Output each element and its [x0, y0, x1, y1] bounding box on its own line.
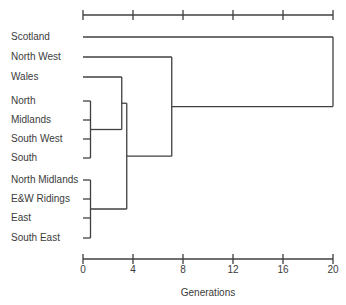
leaf-label-north-midlands: North Midlands [11, 174, 78, 186]
dendrogram-figure: Scotland North West Wales North Midlands… [0, 0, 346, 305]
leaf-label-north-west: North West [11, 51, 61, 63]
leaf-label-wales: Wales [11, 71, 38, 83]
x-tick-label-20: 20 [327, 264, 338, 276]
leaf-label-north: North [11, 95, 35, 107]
dendrogram-lines [0, 0, 346, 305]
x-tick-label-16: 16 [277, 264, 288, 276]
x-tick-label-8: 8 [180, 264, 186, 276]
leaf-label-south: South [11, 152, 37, 164]
leaf-label-south-east: South East [11, 232, 60, 244]
leaf-label-midlands: Midlands [11, 114, 51, 126]
leaf-label-east: East [11, 212, 31, 224]
x-tick-label-0: 0 [80, 264, 86, 276]
leaf-label-ew-ridings: E&W Ridings [11, 193, 70, 205]
x-tick-label-4: 4 [130, 264, 136, 276]
x-axis-title: Generations [181, 287, 235, 299]
x-tick-label-12: 12 [227, 264, 238, 276]
leaf-label-scotland: Scotland [11, 31, 50, 43]
leaf-label-south-west: South West [11, 133, 63, 145]
